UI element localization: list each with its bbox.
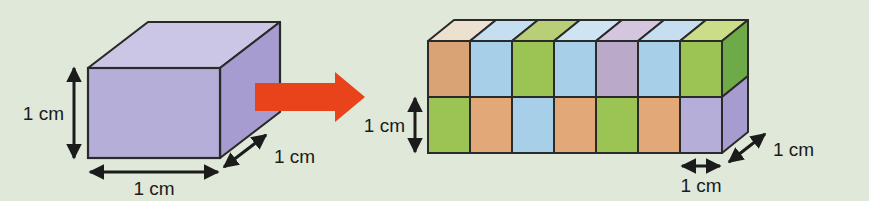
unit-cube-depth-label: 1 cm xyxy=(274,146,315,167)
prism-front-face-top-2 xyxy=(470,41,512,97)
prism-front-face-top-1 xyxy=(428,41,470,97)
prism-height-label: 1 cm xyxy=(364,115,405,136)
prism-front-face-top-4 xyxy=(554,41,596,97)
prism-front-face-top-3 xyxy=(512,41,554,97)
unit-cube-height-label: 1 cm xyxy=(23,103,64,124)
prism-front-face-bottom-5 xyxy=(596,97,638,153)
unit-cube-width-label: 1 cm xyxy=(133,178,174,199)
prism-front-face-top-7 xyxy=(680,41,722,97)
figure-svg: 1 cm 1 cm 1 cm xyxy=(0,0,869,201)
prism-front-face-top-6 xyxy=(638,41,680,97)
prism-front-face-bottom-2 xyxy=(470,97,512,153)
prism-depth-label: 1 cm xyxy=(773,139,814,160)
prism-front-face-bottom-7 xyxy=(680,97,722,153)
prism-width-label: 1 cm xyxy=(680,175,721,196)
prism-front-face-bottom-1 xyxy=(428,97,470,153)
rectangular-prism xyxy=(428,20,748,153)
unit-cube-front-face xyxy=(88,68,220,158)
figure-canvas: 1 cm 1 cm 1 cm xyxy=(0,0,869,201)
prism-front-face-bottom-4 xyxy=(554,97,596,153)
prism-front-face-bottom-3 xyxy=(512,97,554,153)
prism-front-face-bottom-6 xyxy=(638,97,680,153)
prism-front-face-top-5 xyxy=(596,41,638,97)
